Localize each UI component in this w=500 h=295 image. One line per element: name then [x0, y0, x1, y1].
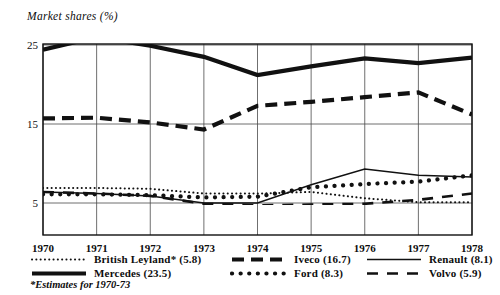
legend-item-renault[interactable]: Renault (8.1) [365, 253, 480, 265]
legend-label-volvo: Volvo (5.9) [429, 267, 482, 279]
chart-legend: British Leyland* (5.8)Iveco (16.7)Renaul… [30, 252, 480, 280]
legend-swatch-ford-icon [230, 268, 288, 279]
legend-swatch-british-leyland-icon [30, 254, 88, 265]
y-tick-25: 25 [18, 39, 38, 51]
legend-label-ford: Ford (8.3) [294, 267, 343, 279]
legend-swatch-volvo-icon [365, 268, 423, 279]
legend-item-british-leyland[interactable]: British Leyland* (5.8) [30, 253, 230, 265]
legend-swatch-iveco-icon [230, 254, 288, 265]
chart-page: Market shares (%) 1970197119721973197419… [0, 0, 500, 295]
legend-label-iveco: Iveco (16.7) [294, 253, 351, 265]
legend-swatch-mercedes-icon [30, 268, 88, 279]
y-tick-5: 5 [18, 197, 38, 209]
legend-item-ford[interactable]: Ford (8.3) [230, 267, 365, 279]
legend-label-renault: Renault (8.1) [429, 253, 493, 265]
legend-row: Mercedes (23.5)Ford (8.3)Volvo (5.9) [30, 266, 480, 280]
legend-item-mercedes[interactable]: Mercedes (23.5) [30, 267, 230, 279]
chart-footnote: *Estimates for 1970-73 [30, 279, 130, 290]
legend-label-mercedes: Mercedes (23.5) [94, 267, 171, 279]
legend-label-british-leyland: British Leyland* (5.8) [94, 253, 201, 265]
legend-swatch-renault-icon [365, 254, 423, 265]
gridlines [43, 44, 472, 235]
legend-item-iveco[interactable]: Iveco (16.7) [230, 253, 365, 265]
y-tick-15: 15 [18, 118, 38, 130]
legend-item-volvo[interactable]: Volvo (5.9) [365, 267, 480, 279]
legend-row: British Leyland* (5.8)Iveco (16.7)Renaul… [30, 252, 480, 266]
